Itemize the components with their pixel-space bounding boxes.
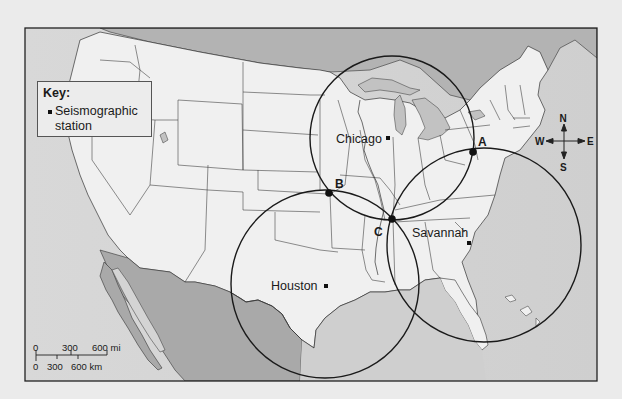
savannah-station-marker	[467, 241, 471, 245]
point-c-label: C	[374, 225, 383, 239]
scale-mi-0: 0	[33, 342, 38, 353]
chicago-label: Chicago	[336, 132, 382, 146]
map-key: Key: Seismographic station	[37, 81, 152, 137]
key-item-label: Seismographic station	[55, 104, 145, 134]
scale-mi-300: 300	[62, 342, 78, 353]
scale-mi-600: 600 mi	[92, 342, 121, 353]
point-b-dot	[325, 189, 333, 197]
black-square-icon	[48, 110, 52, 114]
houston-station-marker	[324, 284, 328, 288]
scale-km-300: 300	[47, 361, 63, 372]
compass-east-label: E	[587, 136, 594, 147]
point-c-dot	[388, 215, 396, 223]
savannah-label: Savannah	[412, 226, 468, 240]
point-b-label: B	[335, 177, 344, 191]
scale-km-0: 0	[33, 361, 38, 372]
compass-south-label: S	[560, 162, 567, 173]
compass-west-label: W	[535, 136, 545, 147]
key-item-seismographic-station: Seismographic station	[43, 104, 146, 134]
scale-km-600: 600 km	[71, 361, 102, 372]
point-a-dot	[469, 148, 477, 156]
houston-label: Houston	[271, 279, 318, 293]
key-title: Key:	[43, 86, 146, 101]
point-a-label: A	[478, 135, 487, 149]
earthquake-epicenter-map: Chicago Savannah Houston A B C N S E W 0…	[0, 0, 622, 399]
compass-north-label: N	[560, 113, 567, 124]
chicago-station-marker	[386, 136, 390, 140]
